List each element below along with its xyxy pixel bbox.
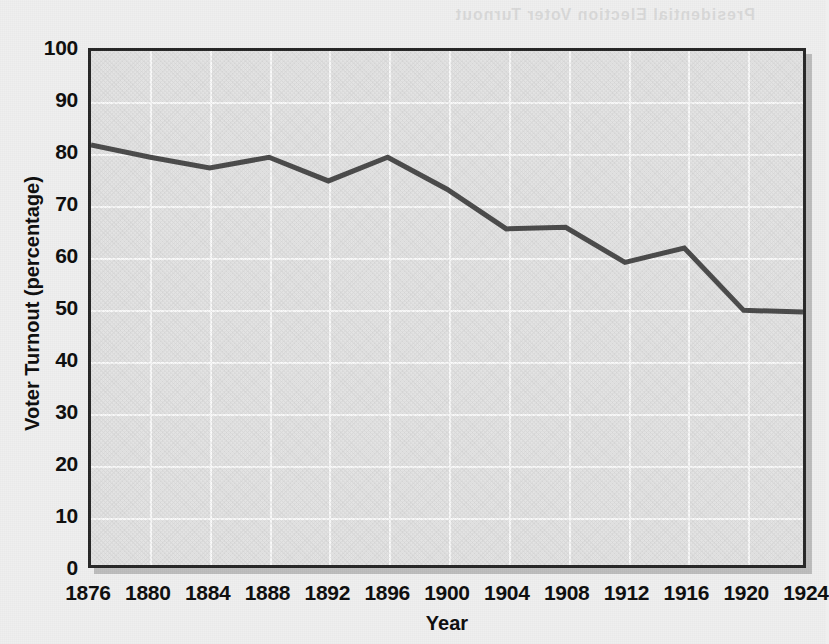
y-axis-title: Voter Turnout (percentage) bbox=[21, 104, 44, 504]
y-tick-label: 10 bbox=[6, 504, 78, 528]
x-tick-label: 1888 bbox=[245, 581, 291, 605]
scan-bleed-through-artifact: Presidential Election Voter Turnout bbox=[55, 6, 755, 30]
x-tick-label: 1904 bbox=[484, 581, 530, 605]
y-tick-label: 0 bbox=[6, 556, 78, 580]
x-tick-label: 1896 bbox=[364, 581, 410, 605]
plot-area bbox=[88, 48, 806, 568]
data-series-line bbox=[91, 51, 803, 567]
x-tick-label: 1920 bbox=[723, 581, 769, 605]
x-tick-label: 1916 bbox=[664, 581, 710, 605]
x-tick-label: 1880 bbox=[125, 581, 171, 605]
x-tick-label: 1892 bbox=[305, 581, 351, 605]
x-tick-label: 1912 bbox=[604, 581, 650, 605]
x-tick-label: 1908 bbox=[544, 581, 590, 605]
x-axis-tick-labels: 1876188018841888189218961900190419081912… bbox=[88, 581, 806, 609]
x-tick-label: 1900 bbox=[424, 581, 470, 605]
x-tick-label: 1876 bbox=[65, 581, 111, 605]
x-tick-label: 1924 bbox=[783, 581, 829, 605]
x-tick-label: 1884 bbox=[185, 581, 231, 605]
series-line-voter-turnout bbox=[91, 145, 803, 312]
x-axis-title: Year bbox=[88, 612, 806, 635]
y-tick-label: 100 bbox=[6, 36, 78, 60]
